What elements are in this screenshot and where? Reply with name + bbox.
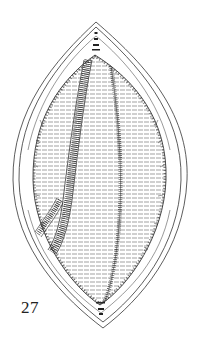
illustration-svg xyxy=(0,0,198,342)
top-tip-marks xyxy=(92,32,100,51)
muscle-surface xyxy=(0,0,198,342)
figure-number: 27 xyxy=(21,298,39,318)
incision-illustration: 27 xyxy=(0,0,198,342)
